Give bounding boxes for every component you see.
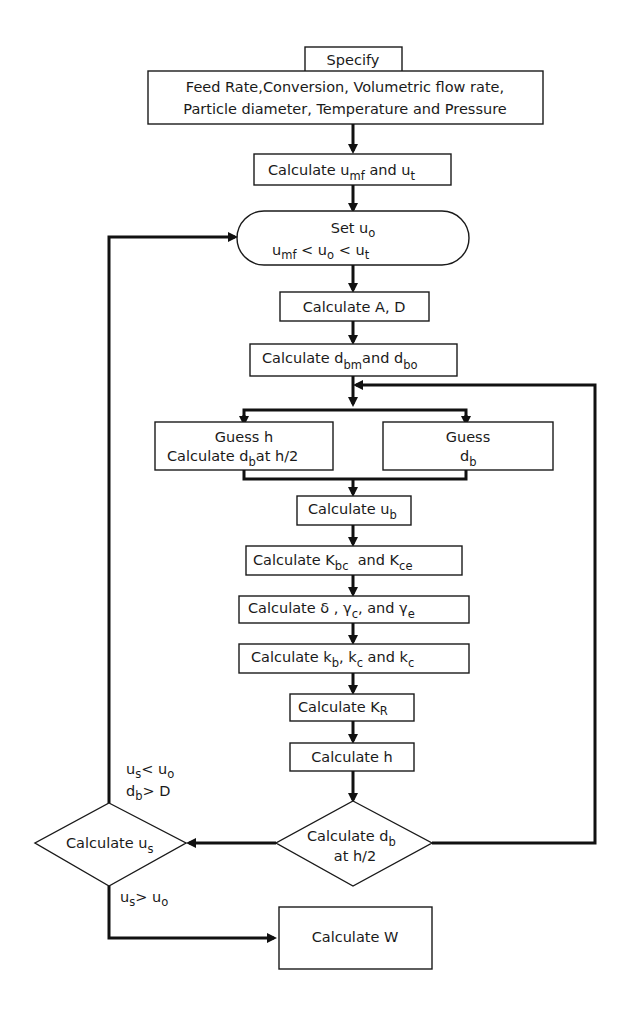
- calc-ub-node: Calculate ub: [297, 496, 411, 525]
- calc-dbm-dbo-node: Calculate dbmand dbo: [250, 344, 457, 376]
- guess-db-node: Guess db: [383, 422, 553, 470]
- calc-db-decision-node: Calculate db at h/2: [276, 801, 432, 886]
- calc-umf-ut-node: Calculate umf and ut: [254, 154, 451, 185]
- loop-condition-label: us< uo db> D: [126, 761, 174, 803]
- calc-kbc-kce-node: Calculate Kbc and Kce: [246, 546, 462, 575]
- svg-text:Guess h: Guess h: [215, 429, 273, 445]
- svg-text:db> D: db> D: [126, 783, 170, 803]
- svg-text:us> uo: us> uo: [120, 889, 168, 909]
- calc-h-node: Calculate h: [290, 743, 414, 771]
- flowchart: Specify Feed Rate,Conversion, Volumetric…: [0, 0, 625, 1011]
- calc-w-node: Calculate W: [279, 907, 432, 969]
- calc-delta-gamma-node: Calculate δ , γc, and γe: [239, 596, 469, 623]
- exit-condition-label: us> uo: [120, 889, 168, 909]
- guess-h-node: Guess h Calculate dbat h/2: [155, 422, 333, 470]
- calc-us-decision-node: Calculate us: [35, 803, 186, 886]
- svg-text:Calculate W: Calculate W: [312, 929, 399, 945]
- merge-connector: [244, 470, 466, 479]
- set-u0-node: Set uo umf < uo < ut: [237, 211, 469, 265]
- calc-kb-kc-node: Calculate kb, kc and kc: [239, 644, 469, 673]
- svg-text:Guess: Guess: [446, 429, 490, 445]
- calc-a-d-node: Calculate A, D: [280, 292, 429, 321]
- exit-connector: [109, 886, 274, 938]
- specify-line2: Particle diameter, Temperature and Press…: [183, 101, 506, 117]
- specify-node: Specify Feed Rate,Conversion, Volumetric…: [148, 47, 543, 124]
- specify-header: Specify: [327, 52, 380, 68]
- calc-kr-node: Calculate KR: [290, 694, 414, 721]
- svg-text:Calculate h: Calculate h: [311, 749, 393, 765]
- loop-back-u0-connector: [109, 237, 235, 803]
- svg-text:Calculate A, D: Calculate A, D: [303, 299, 406, 315]
- specify-line1: Feed Rate,Conversion, Volumetric flow ra…: [186, 79, 504, 95]
- split-connector: [244, 410, 466, 423]
- svg-text:us< uo: us< uo: [126, 761, 174, 781]
- svg-text:at h/2: at h/2: [334, 848, 376, 864]
